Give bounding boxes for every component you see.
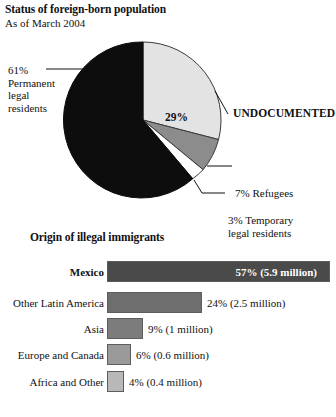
bar-value-europe-and-canada: 6% (0.6 million) [136, 349, 209, 361]
bar-value-asia: 9% (1 million) [148, 323, 213, 335]
pie-callout-temporary-line-1: 3% Temporary [228, 214, 293, 227]
bar-value-africa-and-other: 4% (0.4 million) [129, 376, 202, 388]
pie-callout-permanent-line-3: legal [8, 89, 55, 102]
bar-label-mexico: Mexico [70, 266, 104, 278]
bar-label-asia: Asia [84, 323, 104, 335]
pie-chart-title: Status of foreign-born population [5, 3, 166, 15]
pie-callout-temporary-line-2: legal residents [228, 227, 293, 240]
bar-rect-other-latin-america [107, 292, 202, 313]
bar-row-europe-and-canada: Europe and Canada 6% (0.6 million) [0, 344, 336, 365]
bar-value-mexico: 57% (5.9 million) [235, 266, 317, 278]
bar-rect-mexico: 57% (5.9 million) [107, 261, 330, 282]
bar-row-africa-and-other: Africa and Other 4% (0.4 million) [0, 371, 336, 392]
bar-rect-europe-and-canada [107, 344, 131, 365]
bar-row-mexico: Mexico 57% (5.9 million) [0, 261, 336, 282]
pie-slice-label-undocumented-percent: 29% [165, 111, 188, 123]
pie-callout-temporary-legal-residents: 3% Temporary legal residents [228, 214, 293, 239]
leader-line-temporary-legal-residents [194, 180, 225, 193]
bar-row-other-latin-america: Other Latin America 24% (2.5 million) [0, 292, 336, 313]
pie-callout-refugees: 7% Refugees [235, 187, 293, 200]
bar-rect-asia [107, 318, 143, 339]
pie-callout-permanent-line-4: residents [8, 102, 55, 115]
bar-label-europe-and-canada: Europe and Canada [18, 349, 104, 361]
bar-label-other-latin-america: Other Latin America [13, 297, 104, 309]
bar-rect-africa-and-other [107, 371, 124, 392]
pie-callout-undocumented: UNDOCUMENTED [233, 107, 335, 120]
pie-callout-permanent-line-2: Permanent [8, 77, 55, 90]
pie-callout-permanent-line-1: 61% [8, 64, 55, 77]
infographic-root: Status of foreign-born population As of … [0, 0, 336, 417]
bar-value-other-latin-america: 24% (2.5 million) [207, 297, 286, 309]
bar-row-asia: Asia 9% (1 million) [0, 318, 336, 339]
pie-callout-permanent-legal-residents: 61% Permanent legal residents [8, 64, 55, 114]
bar-chart-title: Origin of illegal immigrants [30, 231, 164, 243]
pie-chart: 29% 61% Permanent legal residents UNDOCU… [0, 28, 336, 223]
bar-label-africa-and-other: Africa and Other [29, 376, 104, 388]
